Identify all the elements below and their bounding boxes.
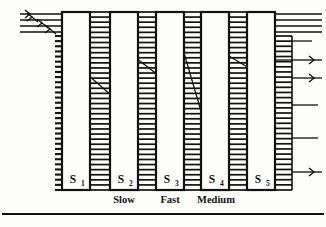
output-line-group: [275, 14, 322, 176]
switch-label-S5: S: [255, 173, 261, 185]
switch-label-S4: S: [209, 173, 215, 185]
speed-label-group: SlowFastMedium: [113, 194, 235, 205]
switch-subscript-S4: 4: [220, 179, 224, 188]
switch-box-S1[interactable]: [62, 12, 90, 190]
switch-subscript-S5: 5: [266, 179, 270, 188]
switch-box-S5[interactable]: [247, 12, 275, 190]
switching-fabric-figure: S1S2S3S4S5 SlowFastMedium: [0, 0, 326, 227]
switch-subscript-S3: 3: [175, 179, 179, 188]
switch-label-S1: S: [70, 173, 76, 185]
switch-subscript-S1: 1: [81, 179, 85, 188]
long-link-3: [182, 46, 203, 118]
switch-label-S3: S: [164, 173, 170, 185]
switch-subscript-S2: 2: [129, 179, 133, 188]
switch-box-S3[interactable]: [156, 12, 184, 190]
switch-box-group[interactable]: S1S2S3S4S5: [62, 12, 275, 190]
switch-box-S2[interactable]: [110, 12, 138, 190]
input-line-group: [20, 10, 62, 34]
speed-label-fast: Fast: [160, 194, 180, 205]
switch-label-S2: S: [118, 173, 124, 185]
switch-box-S4[interactable]: [201, 12, 229, 190]
fabric-canvas: S1S2S3S4S5 SlowFastMedium: [0, 0, 326, 227]
speed-label-medium: Medium: [197, 194, 235, 205]
speed-label-slow: Slow: [113, 194, 135, 205]
